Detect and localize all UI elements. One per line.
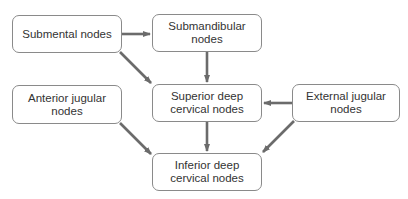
node-submental: Submental nodes — [12, 15, 122, 53]
node-label: Superior deep cervical nodes — [167, 90, 247, 116]
arrow-external-jugular-to-inferior-deep — [263, 121, 294, 152]
node-external-jugular: External jugular nodes — [292, 84, 400, 122]
lymph-drainage-diagram: Submental nodes Submandibular nodes Ante… — [0, 0, 408, 199]
node-superior-deep-cervical: Superior deep cervical nodes — [152, 84, 262, 122]
arrow-anterior-jugular-to-inferior-deep — [120, 123, 151, 154]
node-anterior-jugular: Anterior jugular nodes — [12, 85, 122, 124]
arrow-submental-to-superior-deep — [120, 52, 151, 83]
node-inferior-deep-cervical: Inferior deep cervical nodes — [152, 153, 262, 191]
node-label: Anterior jugular nodes — [17, 92, 117, 118]
node-label: Inferior deep cervical nodes — [167, 159, 247, 185]
node-label: Submandibular nodes — [167, 20, 247, 46]
node-label: External jugular nodes — [297, 90, 395, 116]
node-submandibular: Submandibular nodes — [152, 14, 262, 52]
node-label: Submental nodes — [22, 28, 112, 41]
